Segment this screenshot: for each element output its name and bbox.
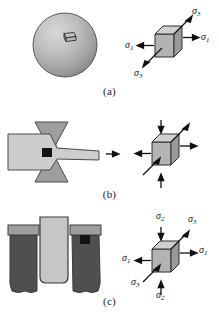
stress-element-marker-c <box>80 235 90 244</box>
arrow-sigma3-upper-a <box>174 16 192 34</box>
caption-c: (c) <box>0 295 219 307</box>
label-sigma3-upper-a: σ3 <box>192 6 200 18</box>
panel-c: σ1 σ1 σ2 σ2 σ3 σ3 (c) <box>0 205 219 312</box>
panel-b: σ1 σ1 σ2 σ2 σ3 σ3 (b) <box>0 104 219 205</box>
arrow-sigma1-left-b <box>135 151 151 156</box>
label-sigma1-right-a: σ1 <box>201 32 209 44</box>
stress-cube-b <box>135 120 197 188</box>
arrow-sigma2-top-b <box>158 120 163 133</box>
label-sigma1-left-a: σ1 <box>125 40 133 52</box>
necked-tensile-specimen <box>8 122 99 182</box>
sphere-surface-element <box>64 33 76 42</box>
stress-cube-a <box>137 16 199 67</box>
stress-element-marker-b <box>42 148 52 157</box>
arrow-sigma3-upper-c <box>171 231 189 249</box>
arrow-sigma1-right-b <box>180 143 197 148</box>
arrow-sigma2-top-c <box>158 227 163 240</box>
sphere-specimen <box>33 13 97 77</box>
arrow-sigma2-bottom-c <box>158 281 163 295</box>
arrow-sigma1-right-a <box>183 35 199 40</box>
label-sigma3-lower-a: σ3 <box>134 68 142 80</box>
panel-a: σ1 σ1 σ3 σ3 (a) <box>0 0 219 104</box>
arrow-sigma3-upper-b <box>171 124 189 142</box>
indentation-specimen <box>8 217 101 293</box>
transfer-arrow-b <box>106 151 119 156</box>
arrow-sigma1-left-a <box>137 43 154 48</box>
caption-b: (b) <box>0 188 219 200</box>
arrow-sigma2-bottom-b <box>158 174 163 188</box>
caption-a: (a) <box>0 85 219 97</box>
arrow-sigma1-right-c <box>180 250 197 255</box>
stress-cube-c <box>135 227 197 295</box>
arrow-sigma1-left-c <box>135 258 151 263</box>
